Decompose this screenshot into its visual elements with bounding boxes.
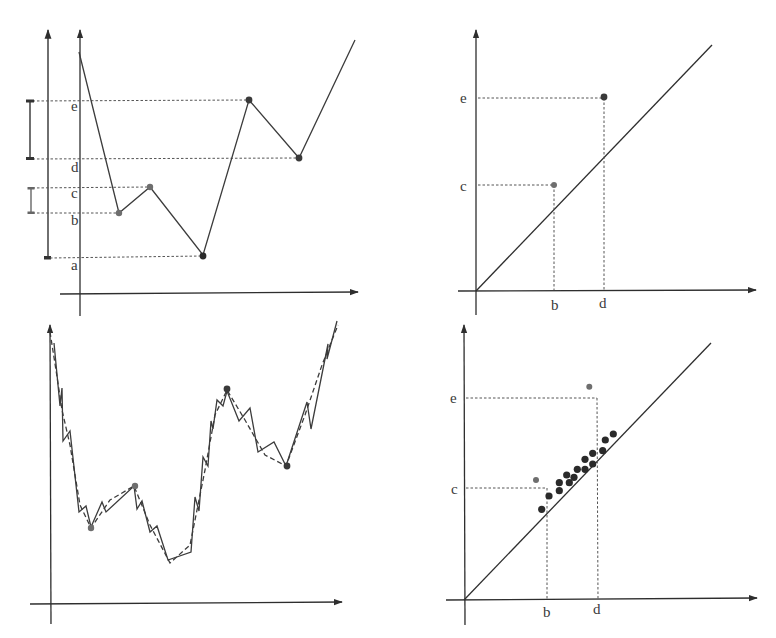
label-c: c — [460, 178, 467, 194]
label-c: c — [451, 481, 458, 497]
range-bracket-cap — [44, 256, 51, 260]
scatter-point — [556, 487, 563, 494]
point-d-e — [601, 94, 608, 101]
level-d-guide — [28, 158, 299, 159]
x-axis — [446, 598, 757, 600]
label-b: b — [543, 604, 551, 620]
label-d: d — [599, 295, 607, 311]
scatter-point — [563, 471, 570, 478]
critical-point-e — [246, 97, 253, 104]
panel-function-graph: e d c b a — [26, 30, 358, 316]
label-e: e — [460, 90, 467, 106]
critical-point-d — [296, 155, 303, 162]
bracket-d-e-bottom-cap — [26, 157, 34, 160]
level-e-guide — [28, 100, 249, 101]
bracket-b-c-top-cap — [28, 187, 35, 190]
figure-svg: e d c b a e c b d — [0, 0, 776, 638]
critical-point-min-2 — [284, 463, 291, 470]
critical-point-c — [147, 184, 153, 190]
figure-canvas: e d c b a e c b d — [0, 0, 776, 638]
scatter-points — [533, 384, 617, 513]
critical-point-min-1 — [88, 525, 94, 531]
panel-noisy-persistence-diagram: e c b d — [446, 325, 757, 625]
label-c: c — [71, 185, 78, 201]
scatter-point — [533, 477, 539, 483]
noisy-curve — [54, 321, 337, 560]
guide-d-vertical — [597, 398, 598, 599]
scatter-point — [581, 466, 588, 473]
label-a: a — [71, 257, 78, 273]
bracket-b-c-bottom-cap — [28, 212, 35, 215]
label-b: b — [71, 212, 79, 228]
point-b-c — [551, 182, 557, 188]
scatter-point — [538, 506, 545, 513]
scatter-point — [602, 436, 609, 443]
scatter-point — [589, 460, 596, 467]
panel-noisy-function-graph — [30, 321, 342, 624]
function-curve — [79, 40, 355, 255]
scatter-point — [599, 447, 606, 454]
scatter-point — [581, 456, 588, 463]
scatter-point — [556, 479, 563, 486]
scatter-point — [566, 479, 573, 486]
label-b: b — [551, 297, 559, 313]
y-axis — [50, 325, 51, 624]
x-axis — [60, 292, 358, 294]
label-e: e — [450, 390, 457, 406]
critical-point-a — [200, 253, 207, 260]
bracket-d-e-top-cap — [26, 100, 34, 103]
label-d: d — [71, 159, 79, 175]
y-axis — [464, 325, 465, 625]
scatter-point — [586, 384, 592, 390]
critical-point-max-2 — [224, 386, 231, 393]
level-c-guide — [28, 187, 150, 188]
diagonal-line — [476, 45, 712, 291]
x-axis — [458, 290, 756, 291]
scatter-point — [574, 466, 581, 473]
label-d: d — [593, 601, 601, 617]
critical-point-max-1 — [132, 483, 138, 489]
panel-persistence-diagram: e c b d — [458, 30, 756, 315]
scatter-point — [589, 450, 596, 457]
scatter-point — [570, 474, 577, 481]
scatter-point — [610, 430, 617, 437]
x-axis — [30, 602, 342, 604]
scatter-point — [545, 492, 552, 499]
critical-point-b — [116, 210, 122, 216]
label-e: e — [71, 98, 78, 114]
